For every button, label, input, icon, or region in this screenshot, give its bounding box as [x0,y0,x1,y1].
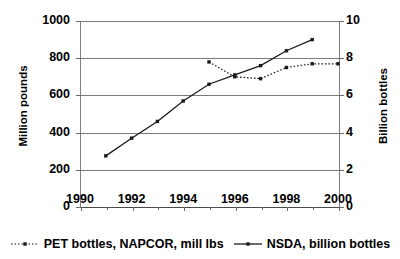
y-tick-right-10 [339,21,344,22]
y-tick-label-left-1000: 1000 [10,13,70,27]
data-point-1-1998 [285,49,288,52]
data-point-0-1999 [311,62,314,65]
legend-swatch-solid-icon [233,239,263,249]
x-tick-1998 [287,207,288,211]
data-point-0-1995 [207,60,210,63]
data-point-1-1995 [207,83,210,86]
legend-swatch-dotted-icon [10,239,40,249]
y-tick-label-left-400: 400 [10,125,70,139]
data-point-1-1996 [233,73,236,76]
y-tick-label-right-8: 8 [346,50,400,64]
data-point-1-1997 [259,64,262,67]
x-tick-1996 [236,207,237,211]
data-point-1-1999 [311,38,314,41]
data-point-0-2000 [336,62,339,65]
x-tick-2000 [339,207,340,211]
data-point-1-1992 [130,136,133,139]
y-tick-label-right-6: 6 [346,87,400,101]
x-minor-tick-1993 [158,207,159,210]
y-tick-right-2 [339,170,344,171]
data-point-0-1997 [259,77,262,80]
x-tick-1994 [184,207,185,211]
series-1 [104,38,314,158]
x-minor-tick-1991 [107,207,108,210]
series-line-1 [106,40,312,156]
legend-label-1: NSDA, billion bottles [267,237,391,251]
x-tick-1990 [81,207,82,211]
legend-label-0: PET bottles, NAPCOR, mill lbs [44,237,224,251]
y-tick-label-right-2: 2 [346,162,400,176]
data-point-1-1991 [104,154,107,157]
legend-item-1[interactable]: NSDA, billion bottles [233,237,391,251]
x-minor-tick-1999 [313,207,314,210]
chart-container: Million pounds Billion bottles 020040060… [0,0,400,259]
x-minor-tick-1997 [262,207,263,210]
y-tick-right-8 [339,58,344,59]
data-point-1-1993 [156,120,159,123]
y-tick-right-4 [339,133,344,134]
y-tick-right-6 [339,95,344,96]
series-line-0 [209,62,338,79]
y-tick-label-right-10: 10 [346,13,400,27]
y-tick-label-left-200: 200 [10,162,70,176]
y-tick-label-left-800: 800 [10,50,70,64]
y-tick-label-left-600: 600 [10,87,70,101]
y-tick-label-right-4: 4 [346,125,400,139]
x-tick-1992 [133,207,134,211]
data-point-0-1998 [285,66,288,69]
data-point-1-1994 [182,99,185,102]
legend-item-0[interactable]: PET bottles, NAPCOR, mill lbs [10,237,224,251]
x-minor-tick-1995 [210,207,211,210]
series-layer [80,21,338,207]
chart-legend: PET bottles, NAPCOR, mill lbsNSDA, billi… [0,232,400,256]
